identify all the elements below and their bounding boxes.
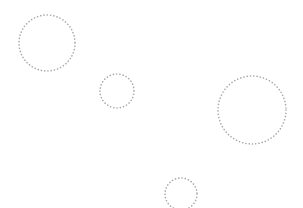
dotted-circles-drawing [0, 0, 303, 208]
dotted-circle-3 [218, 76, 286, 144]
dotted-circle-2 [100, 74, 134, 108]
diagram-canvas [0, 0, 303, 208]
dotted-circle-4 [165, 178, 197, 208]
dotted-circle-1 [19, 15, 75, 71]
